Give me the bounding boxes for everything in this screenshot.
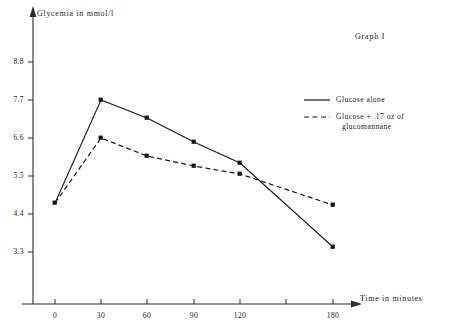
- y-axis-title: Glycemia in mmol/l: [37, 9, 114, 19]
- legend-item-glucose-plus-glucomannane: Glucose + .17 oz of glucomannane: [304, 112, 446, 132]
- legend-label-main: Glucose + .17 oz of: [336, 112, 404, 121]
- x-tick-label: 60: [134, 311, 160, 320]
- x-tick-label: 120: [227, 311, 253, 320]
- y-tick-label: 8.8: [2, 57, 24, 66]
- y-tick-label: 3.3: [2, 247, 24, 256]
- x-axis: [22, 299, 362, 307]
- chart-container: Glycemia in mmol/l Time in minutes Graph…: [0, 0, 449, 327]
- graph-caption: Graph I: [355, 32, 385, 42]
- y-tick-label: 6.6: [2, 133, 24, 142]
- series-glucose-plus-glucomannane: [55, 136, 335, 207]
- legend-item-glucose-alone: Glucose alone: [304, 95, 446, 106]
- legend-label: Glucose alone: [336, 95, 385, 105]
- x-axis-title: Time in minutes: [360, 294, 423, 304]
- x-tick-label: 0: [42, 311, 68, 320]
- x-tick-label: 30: [88, 311, 114, 320]
- y-tick-label: 7.7: [2, 95, 24, 104]
- legend-label: Glucose + .17 oz of glucomannane: [336, 112, 404, 132]
- legend-label-continuation: glucomannane: [336, 122, 404, 132]
- x-tick-label: 90: [181, 311, 207, 320]
- x-tick-label: 180: [320, 311, 346, 320]
- legend-dashed-line-icon: [304, 114, 330, 123]
- legend: Glucose alone Glucose + .17 oz of glucom…: [304, 95, 446, 138]
- series-glucose-alone: [53, 98, 335, 249]
- y-axis: [28, 6, 36, 304]
- y-axis-arrow-icon: [30, 6, 37, 17]
- legend-label-main: Glucose alone: [336, 95, 385, 104]
- y-tick-label: 4.4: [2, 209, 24, 218]
- chart-plot-area: [0, 0, 449, 327]
- legend-solid-line-icon: [304, 97, 330, 106]
- y-tick-label: 5.5: [2, 171, 24, 180]
